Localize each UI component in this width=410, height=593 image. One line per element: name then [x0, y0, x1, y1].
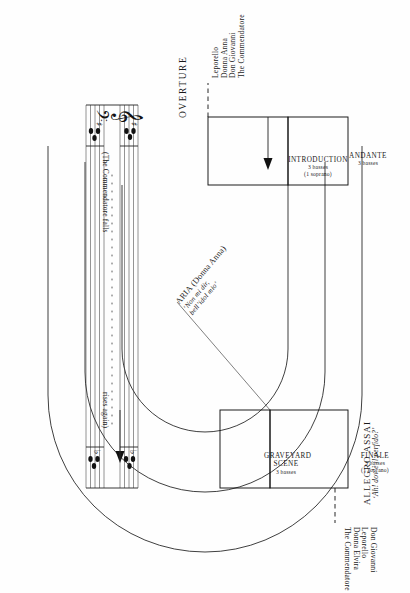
chord-right-treble: ♭	[124, 450, 138, 469]
box-label-introduction-sub2: (1 soprano)	[282, 171, 354, 177]
box-label-finale: FINALE 3 basses (1 soprano)	[340, 452, 410, 473]
cast-list-left: Leporello Donna Anna Don Giovanni The Co…	[212, 14, 247, 78]
cast-list-right: Don Giovanni Leporello Donna Elvira The …	[342, 527, 377, 591]
arc-middle	[85, 162, 325, 492]
box-label-graveyard: GRAVEYARD SCENE 3 basses	[264, 452, 308, 475]
treble-clef-icon: 𝄞	[111, 108, 143, 123]
box-label-graveyard-sub1: 3 basses	[264, 469, 308, 475]
don-giovanni-structure-diagram: 𝄞 𝄢 ♯ ♯	[0, 0, 410, 593]
stage-direction-rises: rises again)	[100, 392, 109, 428]
box-label-finale-sub2: (1 soprano)	[340, 467, 410, 473]
box-label-andante-title: ANDANTE	[342, 152, 394, 160]
box-label-andante: ANDANTE 3 basses	[342, 152, 394, 167]
figure-page: 𝄞 𝄢 ♯ ♯	[0, 0, 410, 593]
page-title: OVERTURE	[178, 56, 189, 118]
cast-right-item-2: Leporello	[360, 527, 369, 591]
box-introduction	[208, 117, 288, 185]
box-finale	[270, 410, 348, 488]
cast-right-item-4: The Commendatore	[342, 527, 351, 591]
svg-text:♯: ♯	[94, 122, 104, 126]
svg-text:♯: ♯	[129, 122, 139, 126]
chord-left-treble: ♯	[124, 122, 139, 140]
aria-leader-line	[177, 302, 270, 410]
cast-right-item-3: Donna Elvira	[351, 527, 360, 591]
cast-right-item-1: Don Giovanni	[368, 527, 377, 591]
svg-text:♭: ♭	[92, 450, 102, 454]
svg-text:♭: ♭	[128, 450, 138, 454]
bass-clef-icon: 𝄢	[88, 109, 112, 122]
stage-direction-falls: (The Commendatore falls	[100, 152, 109, 233]
music-system: 𝄞 𝄢 ♯ ♯	[86, 105, 143, 488]
arrow-left	[264, 117, 273, 170]
chord-left-bass: ♯	[89, 122, 104, 141]
box-label-finale-title: FINALE	[340, 452, 410, 460]
box-label-graveyard-title: GRAVEYARD SCENE	[264, 452, 308, 469]
right-box-group	[220, 410, 348, 488]
box-label-andante-sub1: 3 basses	[342, 160, 394, 166]
cast-left-item-4: The Commendatore	[238, 14, 247, 78]
arc-inner	[122, 185, 288, 432]
